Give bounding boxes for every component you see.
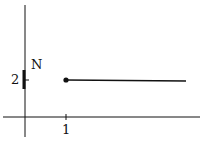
closed-dot-marker	[63, 77, 68, 82]
x-tick-label: 1	[62, 123, 70, 136]
ray-line	[66, 80, 186, 81]
segment-label-n: N	[31, 58, 42, 71]
y-tick-label: 2	[11, 73, 19, 86]
